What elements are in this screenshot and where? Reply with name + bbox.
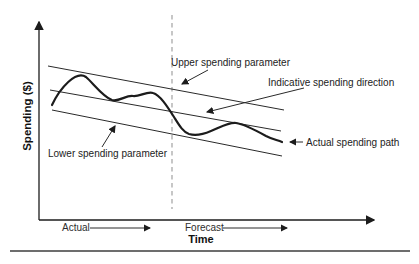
forecast-region-label: Forecast: [185, 222, 224, 233]
lower-spending-parameter-label: Lower spending parameter: [48, 148, 168, 159]
x-axis-title: Time: [188, 233, 213, 245]
upper-parameter-leader-arrow-icon: [182, 70, 208, 84]
actual-spending-path-curve: [52, 75, 282, 142]
upper-spending-parameter-label: Upper spending parameter: [171, 57, 291, 68]
indicative-spending-direction-line: [50, 90, 281, 131]
indicative-direction-leader-arrow-icon: [207, 88, 304, 112]
y-axis-title: Spending ($): [21, 81, 33, 151]
spending-diagram: Spending ($) Upper spending parameter In…: [0, 0, 419, 264]
actual-region-label: Actual: [62, 222, 90, 233]
lower-parameter-leader-arrow-icon: [102, 126, 115, 147]
actual-spending-path-label: Actual spending path: [306, 137, 399, 148]
indicative-spending-direction-label: Indicative spending direction: [268, 77, 394, 88]
diagram-canvas: Spending ($) Upper spending parameter In…: [0, 0, 419, 264]
